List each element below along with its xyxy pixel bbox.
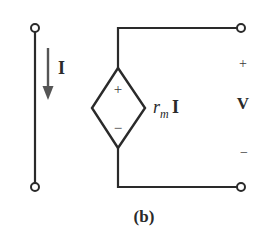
diamond-icon bbox=[92, 68, 145, 148]
terminal-top-right bbox=[237, 24, 245, 32]
terminal-bottom-left bbox=[31, 183, 39, 191]
controlling-variable: I bbox=[172, 97, 179, 117]
output-plus: + bbox=[239, 56, 247, 71]
circuit-diagram: I + − r m I + V − (b) bbox=[0, 0, 262, 236]
top-wire bbox=[118, 28, 237, 68]
gain-subscript: m bbox=[160, 107, 169, 121]
current-label: I bbox=[58, 58, 65, 78]
terminal-top-left bbox=[31, 24, 39, 32]
source-minus: − bbox=[114, 120, 122, 136]
output-voltage-label: V bbox=[237, 94, 250, 113]
source-plus: + bbox=[114, 81, 122, 97]
left-branch bbox=[31, 24, 39, 191]
current-arrow-icon bbox=[43, 48, 54, 100]
figure-caption: (b) bbox=[134, 207, 155, 226]
terminal-bottom-right bbox=[237, 183, 245, 191]
bottom-wire bbox=[118, 148, 237, 187]
dependent-voltage-source: + − bbox=[92, 68, 145, 148]
output-minus: − bbox=[240, 145, 248, 160]
